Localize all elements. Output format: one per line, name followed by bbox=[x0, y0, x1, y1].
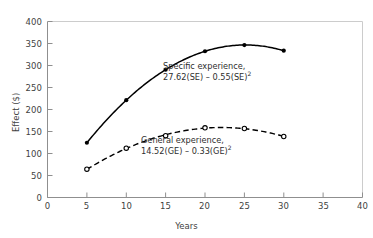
data-point bbox=[242, 126, 246, 130]
annotation-general-experience-exponent: 2 bbox=[228, 144, 232, 151]
data-point bbox=[124, 98, 128, 102]
plot-frame bbox=[48, 22, 363, 198]
y-tick-label-300: 300 bbox=[8, 61, 42, 71]
data-point bbox=[85, 141, 89, 145]
annotation-general-experience-line2: 14.52(GE) – 0.33(GE)2 bbox=[141, 146, 232, 157]
data-point bbox=[282, 49, 286, 53]
annotation-specific-experience: Specific experience, 27.62(SE) – 0.55(SE… bbox=[163, 61, 251, 82]
data-point bbox=[124, 146, 128, 150]
annotation-general-experience: General experience, 14.52(GE) – 0.33(GE)… bbox=[141, 135, 232, 156]
x-tick-label-10: 10 bbox=[116, 201, 137, 211]
series-line-specific-experience bbox=[87, 45, 284, 143]
x-tick-label-30: 30 bbox=[273, 201, 294, 211]
y-tick-label-50: 50 bbox=[8, 171, 42, 181]
x-tick-marks bbox=[48, 193, 363, 198]
annotation-specific-experience-line2: 27.62(SE) – 0.55(SE)2 bbox=[163, 72, 251, 83]
x-tick-label-35: 35 bbox=[313, 201, 334, 211]
annotation-specific-experience-equation: 27.62(SE) – 0.55(SE) bbox=[163, 72, 248, 82]
x-tick-label-25: 25 bbox=[234, 201, 255, 211]
annotation-specific-experience-exponent: 2 bbox=[248, 70, 252, 77]
annotation-general-experience-equation: 14.52(GE) – 0.33(GE) bbox=[141, 146, 228, 156]
x-tick-label-40: 40 bbox=[352, 201, 373, 211]
y-tick-label-100: 100 bbox=[8, 149, 42, 159]
annotation-specific-experience-line1: Specific experience, bbox=[163, 61, 251, 72]
data-point bbox=[85, 167, 89, 171]
data-point bbox=[203, 126, 207, 130]
x-tick-label-0: 0 bbox=[37, 201, 58, 211]
chart-figure: 0 50 100 150 200 250 300 350 400 0 5 10 … bbox=[0, 0, 373, 238]
x-tick-label-20: 20 bbox=[194, 201, 215, 211]
y-axis-title: Effect ($) bbox=[11, 93, 21, 132]
annotation-general-experience-line1: General experience, bbox=[141, 135, 232, 146]
data-point bbox=[203, 49, 207, 53]
x-tick-label-15: 15 bbox=[155, 201, 176, 211]
data-point bbox=[242, 43, 246, 47]
y-tick-label-250: 250 bbox=[8, 83, 42, 93]
y-tick-label-400: 400 bbox=[8, 17, 42, 27]
x-tick-label-5: 5 bbox=[76, 201, 97, 211]
x-axis-title: Years bbox=[0, 221, 373, 231]
y-tick-label-350: 350 bbox=[8, 39, 42, 49]
data-point bbox=[282, 134, 286, 138]
y-tick-marks bbox=[48, 22, 53, 198]
